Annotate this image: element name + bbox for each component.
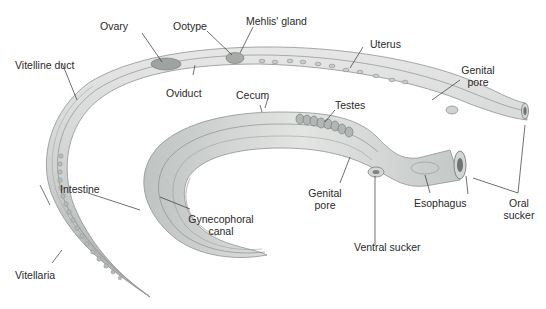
schistosome-diagram: Ovary Ootype Mehlis' gland Uterus Vitell… xyxy=(0,0,546,309)
label-mehlis-gland: Mehlis' gland xyxy=(246,15,307,27)
label-ootype: Ootype xyxy=(173,20,207,32)
label-vitellaria: Vitellaria xyxy=(15,269,55,281)
label-intestine: Intestine xyxy=(60,183,100,195)
label-ventral-sucker: Ventral sucker xyxy=(354,241,421,253)
ootype-organ xyxy=(226,53,244,64)
label-vitelline-duct: Vitelline duct xyxy=(15,59,74,71)
label-oviduct: Oviduct xyxy=(166,87,202,99)
label-cecum: Cecum xyxy=(236,89,269,101)
ovary-organ xyxy=(151,58,181,70)
label-uterus: Uterus xyxy=(370,38,401,50)
label-testes: Testes xyxy=(335,99,365,111)
label-gynecophoral-canal-line1: Gynecophoral xyxy=(186,213,256,225)
label-genital-pore-male-line2: pore xyxy=(305,199,345,211)
label-oral-sucker-line2: sucker xyxy=(499,209,539,221)
label-genital-pore-female-line1: Genital xyxy=(458,64,498,76)
label-genital-pore-female-line2: pore xyxy=(458,76,498,88)
label-ovary: Ovary xyxy=(100,20,128,32)
label-genital-pore-female: Genital pore xyxy=(458,64,498,88)
worm-illustration xyxy=(0,0,546,309)
label-esophagus: Esophagus xyxy=(414,197,467,209)
label-gynecophoral-canal-line2: canal xyxy=(186,225,256,237)
label-oral-sucker-line1: Oral xyxy=(499,197,539,209)
label-gynecophoral-canal: Gynecophoral canal xyxy=(186,213,256,237)
label-genital-pore-male: Genital pore xyxy=(305,187,345,211)
label-oral-sucker: Oral sucker xyxy=(499,197,539,221)
label-genital-pore-male-line1: Genital xyxy=(305,187,345,199)
